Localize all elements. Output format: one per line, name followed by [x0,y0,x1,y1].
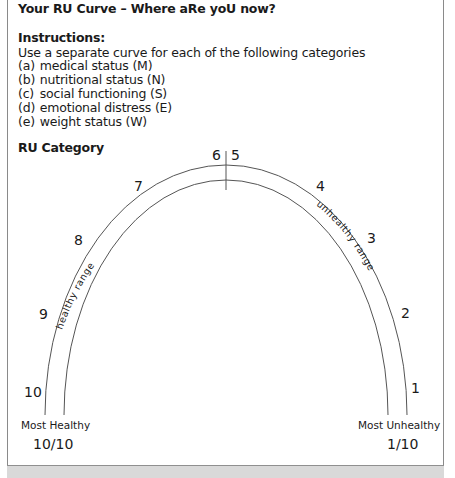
scale-number-5: 5 [231,147,240,163]
scale-number-8: 8 [74,232,83,248]
scale-number-9: 9 [39,306,48,322]
scale-number-2: 2 [401,305,410,321]
scale-number-1: 1 [411,380,420,396]
scale-number-10: 10 [24,384,42,400]
scale-number-7: 7 [134,178,143,194]
scale-number-4: 4 [316,178,325,194]
scale-number-6: 6 [212,147,221,163]
scale-number-3: 3 [367,230,376,246]
most-healthy-score: 10/10 [33,436,73,452]
most-healthy-label: Most Healthy [21,419,90,431]
healthy-range-label: healthy range [54,260,97,331]
outer-arc [45,165,407,415]
most-unhealthy-label: Most Unhealthy [358,419,440,431]
most-unhealthy-score: 1/10 [387,436,418,452]
